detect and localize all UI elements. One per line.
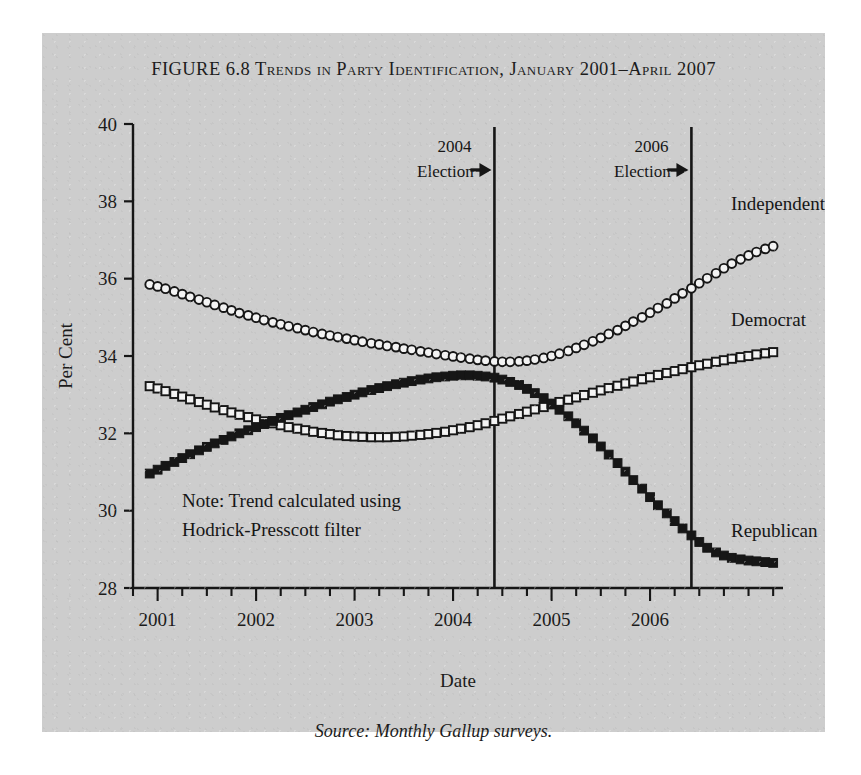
data-point: [604, 450, 613, 459]
data-point: [629, 317, 638, 326]
chart-note-line1: Note: Trend calculated using: [182, 490, 401, 511]
data-point: [596, 442, 605, 451]
y-tick-label: 36: [98, 268, 117, 289]
data-point: [638, 484, 647, 493]
data-point: [358, 433, 366, 441]
data-point: [383, 342, 392, 351]
data-point: [358, 388, 367, 397]
data-point: [769, 558, 778, 567]
data-point: [186, 292, 195, 301]
data-point: [457, 353, 466, 362]
x-tick-label: 2001: [139, 609, 177, 630]
data-point: [334, 431, 342, 439]
data-point: [678, 289, 687, 298]
election-annotation-label: Election: [614, 162, 671, 181]
data-point: [383, 433, 391, 441]
data-point: [621, 467, 630, 476]
election-arrow-head: [676, 163, 688, 177]
data-point: [383, 382, 392, 391]
data-point: [654, 304, 663, 313]
data-point: [629, 476, 638, 485]
data-point: [752, 350, 760, 358]
data-point: [727, 553, 736, 562]
data-point: [580, 391, 588, 399]
data-point: [210, 301, 219, 310]
data-point: [769, 242, 778, 251]
data-point: [284, 322, 293, 331]
data-point: [333, 395, 342, 404]
data-point: [703, 360, 711, 368]
data-point: [530, 355, 539, 364]
data-point: [580, 426, 589, 435]
data-point: [432, 429, 440, 437]
data-point: [260, 420, 269, 429]
data-point: [481, 372, 490, 381]
data-point: [728, 355, 736, 363]
x-tick-label: 2005: [533, 609, 571, 630]
data-point: [161, 461, 170, 470]
y-tick-label: 30: [98, 500, 117, 521]
data-point: [260, 316, 269, 325]
data-point: [678, 365, 686, 373]
data-point: [408, 432, 416, 440]
data-point: [703, 274, 712, 283]
data-point: [457, 425, 465, 433]
data-point: [727, 259, 736, 268]
data-point: [506, 357, 515, 366]
data-point: [654, 371, 662, 379]
data-point: [506, 378, 515, 387]
data-point: [481, 356, 490, 365]
data-point: [589, 434, 598, 443]
data-point: [580, 340, 589, 349]
data-point: [407, 377, 416, 386]
data-point: [309, 428, 317, 436]
series-label-republican: Republican: [731, 520, 818, 541]
election-annotation-label: Election: [417, 162, 474, 181]
data-point: [186, 450, 195, 459]
data-point: [629, 377, 637, 385]
y-tick-label: 40: [98, 114, 117, 135]
election-arrow-head: [479, 163, 491, 177]
x-tick-label: 2006: [631, 609, 669, 630]
data-point: [530, 389, 539, 398]
data-point: [703, 543, 712, 552]
y-tick-label: 28: [98, 578, 117, 599]
x-axis-title: Date: [440, 670, 476, 691]
x-tick-label: 2004: [434, 609, 473, 630]
data-point: [613, 459, 622, 468]
figure-panel: Figure 6.8 Trends in Party Identificatio…: [42, 33, 825, 732]
data-point: [457, 371, 466, 380]
series-label-independent: Independent: [731, 193, 825, 214]
data-point: [333, 333, 342, 342]
data-point: [235, 309, 244, 318]
data-point: [235, 411, 243, 419]
data-point: [605, 384, 613, 392]
data-point: [309, 403, 318, 412]
x-tick-label: 2003: [336, 609, 374, 630]
chart-note-line2: Hodrick-Presscott filter: [182, 519, 362, 540]
data-point: [604, 330, 613, 339]
data-point: [161, 284, 170, 293]
data-point: [678, 524, 687, 533]
data-point: [752, 248, 761, 257]
data-point: [284, 411, 293, 420]
data-point: [358, 337, 367, 346]
data-point: [769, 348, 777, 356]
y-axis-title: Per Cent: [55, 322, 76, 389]
y-tick-label: 34: [98, 346, 118, 367]
data-point: [161, 387, 169, 395]
x-tick-label: 2002: [237, 609, 275, 630]
y-tick-label: 38: [98, 191, 117, 212]
y-tick-label: 32: [98, 423, 117, 444]
data-point: [506, 412, 514, 420]
data-point: [481, 419, 489, 427]
data-point: [432, 350, 441, 359]
data-point: [654, 501, 663, 510]
data-point: [432, 373, 441, 382]
data-point: [407, 345, 416, 354]
data-point: [210, 439, 219, 448]
election-annotation-year: 2006: [634, 137, 668, 156]
series-independent: [145, 242, 777, 366]
data-point: [235, 429, 244, 438]
data-point: [211, 403, 219, 411]
